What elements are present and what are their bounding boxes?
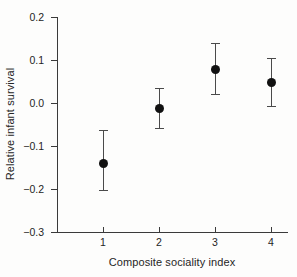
error-bar-cap-bottom: [211, 94, 220, 95]
data-point-marker: [211, 65, 220, 74]
error-bar-cap-top: [155, 88, 164, 89]
error-bar-cap-bottom: [155, 128, 164, 129]
error-bar-cap-bottom: [99, 190, 108, 191]
error-bar-cap-top: [99, 130, 108, 131]
error-bar-cap-top: [211, 43, 220, 44]
error-bar-cap-top: [267, 58, 276, 59]
data-point-marker: [155, 104, 164, 113]
chart-figure: Relative infant survival Composite socia…: [0, 0, 297, 277]
data-point-marker: [267, 78, 276, 87]
data-point-marker: [99, 159, 108, 168]
plot-area: [0, 0, 297, 277]
error-bar-cap-bottom: [267, 106, 276, 107]
